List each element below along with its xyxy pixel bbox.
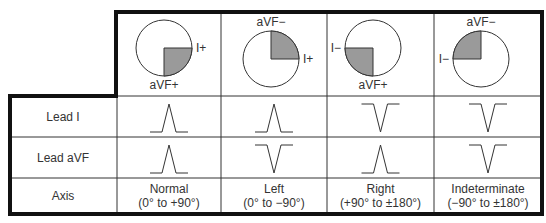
avf-positive-label: aVF+ xyxy=(149,78,178,92)
axis-name: Indeterminate xyxy=(451,182,525,196)
axis-name: Right xyxy=(366,182,395,196)
shaded-quadrant xyxy=(164,48,192,76)
row-label-lead_i: Lead I xyxy=(46,110,79,124)
axis-determination-table: I+aVF+I+aVF−I−aVF+I−aVF− Normal(0° to +9… xyxy=(0,0,546,223)
upright-qrs-icon xyxy=(255,104,293,132)
axis-range: (0° to −90°) xyxy=(243,196,304,210)
inverted-qrs-icon xyxy=(469,145,507,173)
axis-wheel-normal: I+aVF+ xyxy=(136,20,206,92)
upright-qrs-icon xyxy=(362,145,400,173)
shaded-quadrant xyxy=(453,31,481,59)
inverted-qrs-icon xyxy=(362,104,400,132)
row-label-axis: Axis xyxy=(52,189,75,203)
upright-qrs-icon xyxy=(150,104,188,132)
axis-range: (0° to +90°) xyxy=(138,196,199,210)
axis-range: (−90° to ±180°) xyxy=(447,196,528,210)
axis-name: Left xyxy=(264,182,285,196)
shaded-quadrant xyxy=(271,31,299,59)
avf-positive-label: aVF+ xyxy=(358,78,387,92)
row-label-lead_avf: Lead aVF xyxy=(37,151,89,165)
shaded-quadrant xyxy=(345,48,373,76)
axis-wheel-left: I+aVF− xyxy=(243,15,313,87)
lead-i-label: I− xyxy=(439,52,449,66)
axis-wheel-right: I−aVF+ xyxy=(331,20,401,92)
lead-i-label: I− xyxy=(331,41,341,55)
axis-wheel-indeterminate: I−aVF− xyxy=(439,15,509,87)
lead-i-label: I+ xyxy=(303,52,313,66)
avf-negative-label: aVF− xyxy=(466,15,495,29)
lead-i-label: I+ xyxy=(196,41,206,55)
inverted-qrs-icon xyxy=(469,104,507,132)
inverted-qrs-icon xyxy=(255,145,293,173)
upright-qrs-icon xyxy=(150,145,188,173)
axis-range: (+90° to ±180°) xyxy=(340,196,421,210)
avf-negative-label: aVF− xyxy=(256,15,285,29)
axis-name: Normal xyxy=(150,182,189,196)
